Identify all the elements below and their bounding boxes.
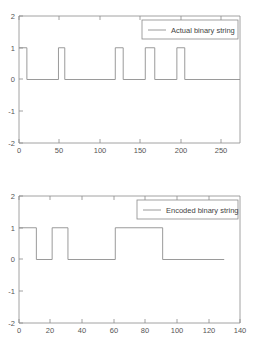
yticklabel-encoded-2: 0 bbox=[11, 255, 15, 264]
yticklabels-encoded: 2 1 0 -1 -2 bbox=[8, 192, 15, 328]
xticklabel-encoded-0: 0 bbox=[17, 326, 21, 335]
legend-actual[interactable]: Actual binary string bbox=[142, 20, 238, 39]
legend-label-actual: Actual binary string bbox=[171, 26, 235, 35]
yticklabel-encoded-1: 1 bbox=[11, 224, 15, 233]
data-series-actual bbox=[19, 48, 240, 80]
yticklabel-encoded-0: 2 bbox=[11, 192, 15, 201]
xticklabel-actual-3: 150 bbox=[134, 146, 147, 155]
xticklabel-encoded-7: 140 bbox=[234, 326, 247, 335]
yticklabels-actual: 2 1 0 -1 -2 bbox=[8, 12, 15, 148]
plot-area-encoded: 0 20 40 60 80 100 120 140 2 1 0 -1 -2 En… bbox=[0, 180, 255, 359]
yticklabel-actual-3: -1 bbox=[8, 107, 15, 116]
yticklabel-actual-4: -2 bbox=[8, 139, 15, 148]
plot-area-actual: 0 50 100 150 200 250 2 1 0 -1 -2 Actual … bbox=[0, 0, 255, 179]
xticklabel-actual-4: 200 bbox=[175, 146, 188, 155]
data-series-encoded bbox=[19, 228, 224, 260]
xticklabel-actual-0: 0 bbox=[17, 146, 21, 155]
yticks-actual bbox=[19, 16, 23, 143]
xticklabel-encoded-6: 120 bbox=[203, 326, 216, 335]
yticklabel-encoded-3: -1 bbox=[8, 287, 15, 296]
yticklabel-actual-0: 2 bbox=[11, 12, 15, 21]
chart-panel-encoded: 0 20 40 60 80 100 120 140 2 1 0 -1 -2 En… bbox=[0, 180, 255, 359]
yticklabel-encoded-4: -2 bbox=[8, 319, 15, 328]
yticks-encoded bbox=[19, 196, 23, 323]
legend-label-encoded: Encoded binary string bbox=[166, 206, 239, 215]
yticklabel-actual-1: 1 bbox=[11, 44, 15, 53]
yticklabel-actual-2: 0 bbox=[11, 75, 15, 84]
figure-canvas: 0 50 100 150 200 250 2 1 0 -1 -2 Actual … bbox=[0, 0, 255, 359]
xticklabel-actual-5: 250 bbox=[215, 146, 228, 155]
xticklabel-encoded-2: 40 bbox=[78, 326, 86, 335]
xticklabels-actual: 0 50 100 150 200 250 bbox=[17, 146, 227, 155]
chart-panel-actual: 0 50 100 150 200 250 2 1 0 -1 -2 Actual … bbox=[0, 0, 255, 179]
xticklabel-encoded-4: 80 bbox=[141, 326, 149, 335]
xticklabel-encoded-3: 60 bbox=[110, 326, 118, 335]
xticklabel-encoded-5: 100 bbox=[171, 326, 184, 335]
xticklabels-encoded: 0 20 40 60 80 100 120 140 bbox=[17, 326, 246, 335]
xticklabel-actual-2: 100 bbox=[94, 146, 107, 155]
xticklabel-actual-1: 50 bbox=[55, 146, 63, 155]
legend-encoded[interactable]: Encoded binary string bbox=[137, 200, 239, 219]
xticklabel-encoded-1: 20 bbox=[46, 326, 54, 335]
